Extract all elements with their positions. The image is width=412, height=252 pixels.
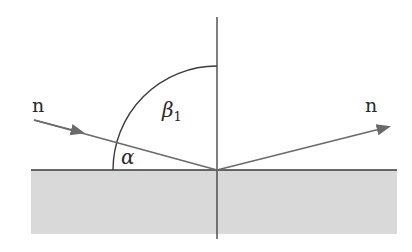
- beta-symbol: β: [161, 98, 174, 122]
- reflection-diagram: n n β1 α: [0, 0, 412, 252]
- reflected-ray: [217, 128, 384, 170]
- beta-subscript: 1: [174, 109, 182, 124]
- medium-block: [31, 170, 397, 234]
- reflected-n-label: n: [365, 94, 377, 116]
- alpha-label: α: [121, 145, 135, 169]
- beta-label: β1: [161, 98, 182, 124]
- incident-n-label: n: [32, 94, 44, 116]
